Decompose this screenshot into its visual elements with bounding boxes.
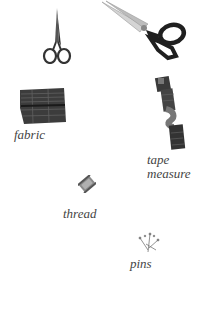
large-scissors-icon [100,0,188,64]
thread-label: thread [63,207,96,221]
tape-measure-label: tape measure [147,153,191,181]
small-scissors-icon [42,6,72,64]
large-scissors-image [100,0,188,64]
thread-spool-icon [78,175,96,193]
fabric-image [18,88,68,124]
thread-image [78,175,96,193]
small-scissors-image [42,6,72,64]
tape-measure-icon [152,75,192,150]
pins-image [136,230,162,254]
pins-icon [136,230,162,254]
tape-measure-image [152,75,192,150]
fabric-label: fabric [14,128,45,142]
fabric-icon [18,88,68,124]
pins-label: pins [130,257,152,271]
